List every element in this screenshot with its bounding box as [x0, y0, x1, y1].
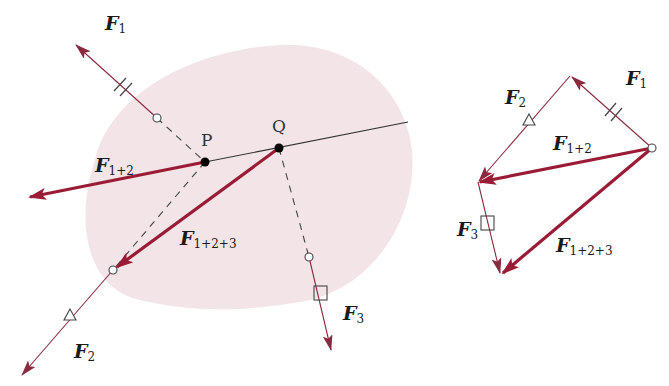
label-f123-right: F1+2+3: [555, 234, 613, 258]
rigid-body-diagram: P Q F1 F1+2 F1+2+3 F2 F3: [22, 12, 413, 375]
point-p: [201, 158, 210, 167]
application-point-f2: [109, 266, 117, 274]
force-polygon-diagram: F1 F2 F1+2 F3 F1+2+3: [456, 67, 656, 273]
application-point-f1: [153, 114, 161, 122]
triangle-marker-icon: [523, 114, 535, 125]
point-p-label: P: [201, 130, 212, 150]
label-f2-left: F2: [73, 340, 95, 364]
double-tick-marker-icon: [605, 103, 622, 121]
label-f2-right: F2: [504, 86, 526, 110]
point-q: [275, 144, 284, 153]
label-f1-left: F1: [104, 12, 126, 36]
point-q-label: Q: [272, 116, 286, 136]
polygon-arrow-f2: [479, 76, 570, 181]
polygon-arrow-f3: [478, 182, 500, 273]
application-point-f3: [305, 253, 313, 261]
force-arrow-f2: [22, 266, 117, 375]
label-f3-right: F3: [456, 218, 478, 242]
polygon-origin-point: [648, 144, 656, 152]
force-arrow-f1: [76, 45, 161, 122]
label-f3-left: F3: [342, 302, 364, 326]
force-diagram-figure: P Q F1 F1+2 F1+2+3 F2 F3: [0, 0, 669, 386]
label-f12-right: F1+2: [552, 132, 592, 156]
label-f1-right: F1: [625, 67, 647, 91]
